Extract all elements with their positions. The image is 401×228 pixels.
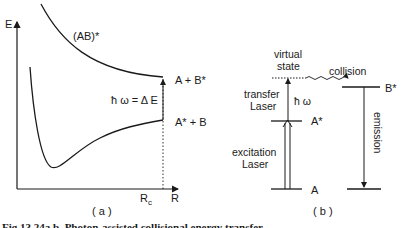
level-a-star-label: A* (311, 115, 323, 127)
panel-b-label: ( b ) (313, 205, 333, 217)
level-a-label: A (311, 184, 318, 196)
diagram-canvas (0, 0, 401, 228)
transfer-laser-line1: transfer (244, 88, 280, 100)
emission-label: emission (372, 112, 384, 153)
virtual-state-label-line2: state (277, 60, 300, 72)
upper-asymptote-label: A + B* (175, 74, 206, 86)
panel-a-label: ( a ) (92, 205, 112, 217)
excitation-laser-line2: Laser (242, 158, 268, 170)
upper-potential-curve (41, 4, 163, 77)
figure-caption: Fig.13.24a,b. Photon-assisted collisiona… (2, 221, 263, 228)
upper-curve-label: (AB)* (73, 30, 99, 42)
rc-label: Rc (140, 192, 152, 209)
lower-potential-curve (30, 67, 163, 168)
transition-label: ħ ω = Δ E (111, 94, 158, 106)
collision-label: collision (329, 65, 366, 77)
transfer-laser-line2: Laser (250, 100, 276, 112)
axis-x-label: R (171, 192, 179, 204)
virtual-state-label-line1: virtual (274, 48, 302, 60)
lower-asymptote-label: A* + B (175, 116, 207, 128)
level-b-star-label: B* (385, 82, 397, 94)
photon-label: ħ ω (294, 95, 311, 107)
excitation-laser-line1: excitation (232, 146, 276, 158)
axis-y-label: E (5, 18, 12, 30)
